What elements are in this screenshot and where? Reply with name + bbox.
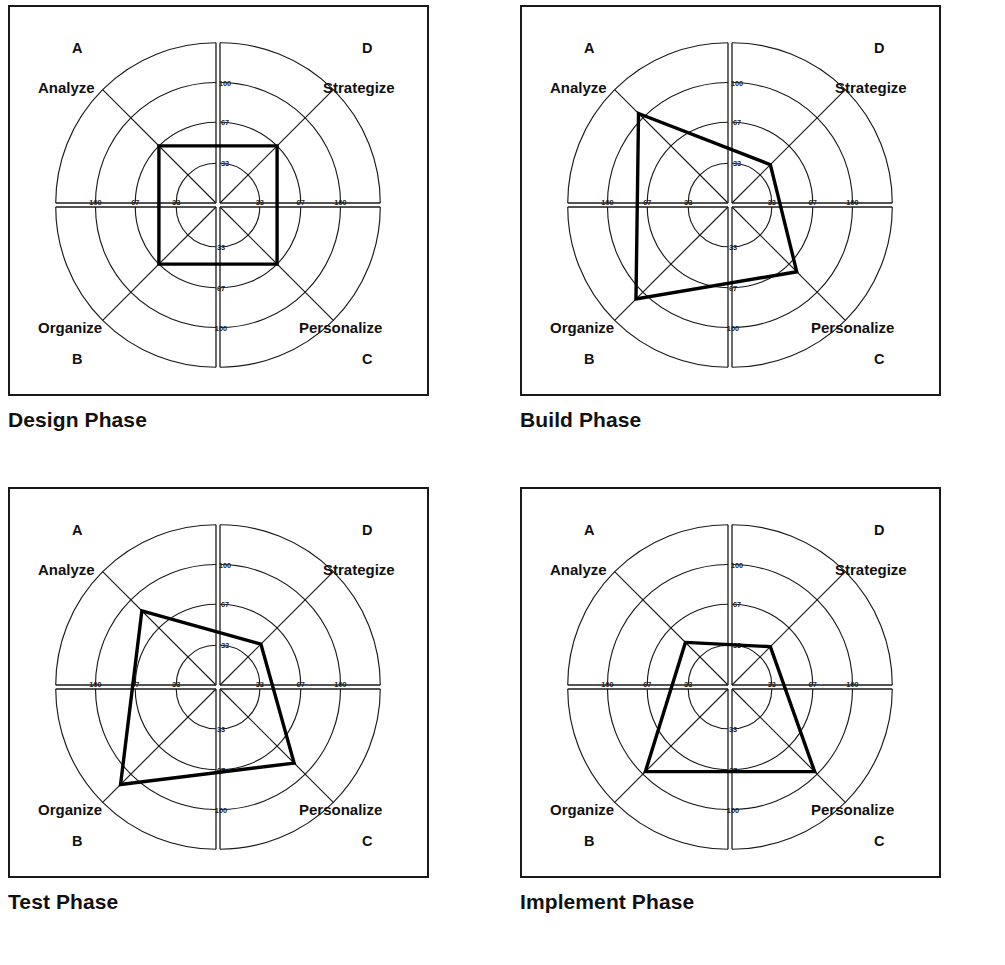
charts-grid: 1006733336710010067333367100ADBCAnalyzeS… bbox=[0, 0, 1005, 965]
quadrant-letter-B: B bbox=[72, 351, 82, 367]
radar-chart-implement: 1006733336710010067333367100ADBCAnalyzeS… bbox=[522, 489, 939, 876]
quadrant-letter-A: A bbox=[72, 522, 83, 538]
quadrant-letter-C: C bbox=[362, 351, 373, 367]
quadrant-label-A: Analyze bbox=[38, 561, 95, 578]
svg-text:100: 100 bbox=[846, 680, 858, 689]
svg-text:33: 33 bbox=[217, 725, 225, 734]
quadrant-letter-B: B bbox=[584, 833, 594, 849]
svg-text:100: 100 bbox=[846, 198, 858, 207]
radar-svg-implement: 1006733336710010067333367100ADBCAnalyzeS… bbox=[522, 489, 939, 876]
quadrant-label-C: Personalize bbox=[299, 801, 382, 818]
chart-title-test: Test Phase bbox=[8, 890, 118, 914]
svg-text:33: 33 bbox=[729, 243, 737, 252]
radar-chart-build: 1006733336710010067333367100ADBCAnalyzeS… bbox=[522, 7, 939, 394]
svg-text:100: 100 bbox=[334, 680, 346, 689]
svg-text:100: 100 bbox=[601, 198, 613, 207]
quadrant-label-D: Strategize bbox=[323, 561, 395, 578]
chart-title-build: Build Phase bbox=[520, 408, 641, 432]
svg-text:67: 67 bbox=[809, 680, 817, 689]
quadrant-label-A: Analyze bbox=[38, 79, 95, 96]
svg-text:33: 33 bbox=[217, 243, 225, 252]
svg-text:100: 100 bbox=[334, 198, 346, 207]
svg-text:100: 100 bbox=[731, 561, 743, 570]
quadrant-label-B: Organize bbox=[550, 319, 614, 336]
radar-chart-design: 1006733336710010067333367100ADBCAnalyzeS… bbox=[10, 7, 427, 394]
quadrant-label-B: Organize bbox=[38, 319, 102, 336]
svg-text:33: 33 bbox=[172, 680, 180, 689]
radar-svg-test: 1006733336710010067333367100ADBCAnalyzeS… bbox=[10, 489, 427, 876]
quadrant-label-B: Organize bbox=[550, 801, 614, 818]
svg-text:67: 67 bbox=[809, 198, 817, 207]
svg-text:100: 100 bbox=[215, 324, 227, 333]
quadrant-letter-C: C bbox=[874, 351, 885, 367]
quadrant-label-D: Strategize bbox=[835, 561, 907, 578]
svg-text:100: 100 bbox=[215, 806, 227, 815]
svg-text:100: 100 bbox=[731, 79, 743, 88]
svg-text:33: 33 bbox=[172, 198, 180, 207]
svg-text:100: 100 bbox=[219, 561, 231, 570]
svg-text:67: 67 bbox=[297, 680, 305, 689]
chart-title-design: Design Phase bbox=[8, 408, 147, 432]
radar-svg-build: 1006733336710010067333367100ADBCAnalyzeS… bbox=[522, 7, 939, 394]
chart-panel-design: 1006733336710010067333367100ADBCAnalyzeS… bbox=[8, 5, 429, 396]
quadrant-letter-D: D bbox=[362, 40, 372, 56]
chart-title-implement: Implement Phase bbox=[520, 890, 694, 914]
quadrant-label-D: Strategize bbox=[835, 79, 907, 96]
svg-text:100: 100 bbox=[89, 680, 101, 689]
quadrant-label-A: Analyze bbox=[550, 79, 607, 96]
svg-text:67: 67 bbox=[733, 118, 741, 127]
quadrant-label-C: Personalize bbox=[299, 319, 382, 336]
svg-text:67: 67 bbox=[131, 198, 139, 207]
svg-text:67: 67 bbox=[643, 198, 651, 207]
radar-chart-test: 1006733336710010067333367100ADBCAnalyzeS… bbox=[10, 489, 427, 876]
svg-text:67: 67 bbox=[729, 284, 737, 293]
svg-text:67: 67 bbox=[221, 118, 229, 127]
radar-svg-design: 1006733336710010067333367100ADBCAnalyzeS… bbox=[10, 7, 427, 394]
svg-text:100: 100 bbox=[89, 198, 101, 207]
svg-text:100: 100 bbox=[219, 79, 231, 88]
chart-panel-implement: 1006733336710010067333367100ADBCAnalyzeS… bbox=[520, 487, 941, 878]
quadrant-label-D: Strategize bbox=[323, 79, 395, 96]
svg-text:100: 100 bbox=[727, 806, 739, 815]
svg-text:67: 67 bbox=[221, 600, 229, 609]
quadrant-letter-D: D bbox=[874, 522, 884, 538]
chart-cell-design: 1006733336710010067333367100ADBCAnalyzeS… bbox=[0, 0, 510, 482]
quadrant-label-C: Personalize bbox=[811, 801, 894, 818]
svg-text:33: 33 bbox=[729, 725, 737, 734]
svg-text:33: 33 bbox=[733, 159, 741, 168]
svg-text:67: 67 bbox=[733, 600, 741, 609]
chart-panel-test: 1006733336710010067333367100ADBCAnalyzeS… bbox=[8, 487, 429, 878]
chart-cell-implement: 1006733336710010067333367100ADBCAnalyzeS… bbox=[510, 482, 1005, 965]
svg-text:33: 33 bbox=[221, 641, 229, 650]
svg-text:67: 67 bbox=[217, 284, 225, 293]
svg-text:100: 100 bbox=[601, 680, 613, 689]
quadrant-label-A: Analyze bbox=[550, 561, 607, 578]
svg-text:67: 67 bbox=[643, 680, 651, 689]
quadrant-letter-B: B bbox=[72, 833, 82, 849]
quadrant-letter-C: C bbox=[362, 833, 373, 849]
svg-text:33: 33 bbox=[256, 198, 264, 207]
svg-text:33: 33 bbox=[256, 680, 264, 689]
quadrant-letter-B: B bbox=[584, 351, 594, 367]
quadrant-letter-D: D bbox=[874, 40, 884, 56]
chart-cell-build: 1006733336710010067333367100ADBCAnalyzeS… bbox=[510, 0, 1005, 482]
quadrant-letter-A: A bbox=[584, 40, 595, 56]
quadrant-letter-C: C bbox=[874, 833, 885, 849]
svg-text:33: 33 bbox=[221, 159, 229, 168]
chart-cell-test: 1006733336710010067333367100ADBCAnalyzeS… bbox=[0, 482, 510, 965]
svg-text:100: 100 bbox=[727, 324, 739, 333]
svg-text:33: 33 bbox=[768, 198, 776, 207]
svg-text:33: 33 bbox=[684, 680, 692, 689]
svg-text:33: 33 bbox=[684, 198, 692, 207]
svg-text:33: 33 bbox=[768, 680, 776, 689]
chart-panel-build: 1006733336710010067333367100ADBCAnalyzeS… bbox=[520, 5, 941, 396]
quadrant-label-C: Personalize bbox=[811, 319, 894, 336]
quadrant-letter-A: A bbox=[584, 522, 595, 538]
svg-text:67: 67 bbox=[297, 198, 305, 207]
quadrant-letter-A: A bbox=[72, 40, 83, 56]
profile-polygon bbox=[645, 642, 814, 771]
quadrant-label-B: Organize bbox=[38, 801, 102, 818]
quadrant-letter-D: D bbox=[362, 522, 372, 538]
